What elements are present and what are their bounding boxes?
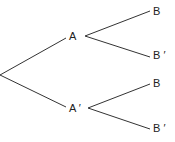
branch-A-B <box>85 11 150 36</box>
branch-A-B-prime <box>85 36 150 57</box>
node-A: A <box>69 31 76 42</box>
node-A-prime-B-prime: B ′ <box>153 123 165 134</box>
branch-root-A <box>0 38 66 75</box>
branch-A-prime-B <box>88 84 150 108</box>
branch-root-A-prime <box>0 75 66 107</box>
node-A-prime: A ′ <box>69 103 81 114</box>
tree-lines <box>0 0 175 142</box>
node-A-B-prime: B ′ <box>153 50 165 61</box>
node-A-prime-B: B <box>153 78 160 89</box>
branch-A-prime-B-prime <box>88 108 150 129</box>
node-A-B: B <box>153 6 160 17</box>
